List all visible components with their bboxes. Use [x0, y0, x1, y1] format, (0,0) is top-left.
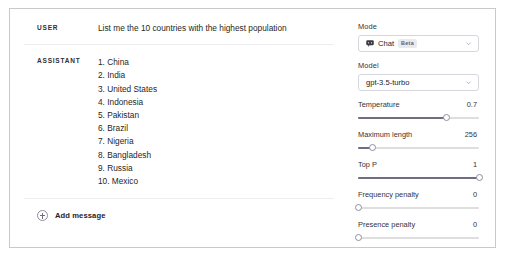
list-item: 7. Nigeria [98, 135, 334, 148]
chevron-down-icon [465, 79, 472, 86]
slider-handle[interactable] [476, 174, 483, 181]
message-text-user[interactable]: List me the 10 countries with the highes… [98, 23, 334, 34]
slider-value: 0 [473, 220, 479, 229]
list-item: 9. Russia [98, 162, 334, 175]
slider-track-top-p[interactable] [358, 174, 479, 182]
slider-handle[interactable] [355, 204, 362, 211]
slider-label: Frequency penalty [358, 190, 419, 199]
slider-value: 0.7 [467, 100, 479, 109]
mode-label: Mode [358, 22, 479, 31]
list-item: 5. Pakistan [98, 109, 334, 122]
list-item: 6. Brazil [98, 122, 334, 135]
slider-track-presence-penalty[interactable] [358, 234, 479, 242]
slider-value: 0 [473, 190, 479, 199]
slider-header: Frequency penalty 0 [358, 190, 479, 199]
slider-handle[interactable] [443, 114, 450, 121]
slider-track [358, 147, 479, 149]
settings-sidebar: Mode Chat Beta Model gpt-3.5-turbo [348, 9, 495, 247]
add-message-label: Add message [55, 211, 105, 220]
chat-bubble-icon [366, 40, 374, 47]
slider-label: Presence penalty [358, 220, 415, 229]
slider-top-p: Top P 1 [358, 160, 479, 182]
slider-header: Temperature 0.7 [358, 100, 479, 109]
slider-label: Temperature [358, 100, 400, 109]
slider-track [358, 237, 479, 239]
plus-circle-icon [37, 210, 48, 221]
country-list: 1. China 2. India 3. United States 4. In… [98, 56, 334, 188]
mode-value: Chat [378, 39, 394, 48]
slider-frequency-penalty: Frequency penalty 0 [358, 190, 479, 212]
slider-header: Presence penalty 0 [358, 220, 479, 229]
model-label: Model [358, 61, 479, 70]
slider-label: Top P [358, 160, 377, 169]
slider-value: 256 [465, 130, 479, 139]
list-item: 3. United States [98, 83, 334, 96]
message-row-assistant[interactable]: ASSISTANT 1. China 2. India 3. United St… [24, 45, 334, 199]
role-label-assistant: ASSISTANT [24, 56, 98, 64]
slider-header: Top P 1 [358, 160, 479, 169]
slider-handle[interactable] [355, 234, 362, 241]
add-message-button[interactable]: Add message [24, 199, 334, 221]
slider-track-maximum-length[interactable] [358, 144, 479, 152]
slider-maximum-length: Maximum length 256 [358, 130, 479, 152]
list-item: 8. Bangladesh [98, 149, 334, 162]
message-row-user[interactable]: USER List me the 10 countries with the h… [24, 9, 334, 45]
model-select[interactable]: gpt-3.5-turbo [358, 74, 479, 91]
user-prompt-text: List me the 10 countries with the highes… [98, 23, 334, 34]
slider-fill [358, 117, 446, 119]
slider-track [358, 207, 479, 209]
beta-badge: Beta [398, 39, 417, 47]
slider-track-frequency-penalty[interactable] [358, 204, 479, 212]
mode-select[interactable]: Chat Beta [358, 35, 479, 52]
mode-field: Mode Chat Beta [358, 22, 479, 52]
slider-fill [358, 177, 479, 179]
list-item: 2. India [98, 69, 334, 82]
chevron-down-icon [465, 40, 472, 47]
model-value: gpt-3.5-turbo [366, 78, 409, 87]
playground-window: USER List me the 10 countries with the h… [9, 8, 496, 248]
message-text-assistant[interactable]: 1. China 2. India 3. United States 4. In… [98, 56, 334, 188]
slider-header: Maximum length 256 [358, 130, 479, 139]
slider-handle[interactable] [369, 144, 376, 151]
role-label-user: USER [24, 23, 98, 31]
slider-temperature: Temperature 0.7 [358, 100, 479, 122]
list-item: 4. Indonesia [98, 96, 334, 109]
list-item: 1. China [98, 56, 334, 69]
slider-value: 1 [473, 160, 479, 169]
model-field: Model gpt-3.5-turbo [358, 61, 479, 91]
slider-label: Maximum length [358, 130, 412, 139]
slider-track-temperature[interactable] [358, 114, 479, 122]
conversation-panel: USER List me the 10 countries with the h… [10, 9, 348, 247]
list-item: 10. Mexico [98, 175, 334, 188]
slider-presence-penalty: Presence penalty 0 [358, 220, 479, 242]
